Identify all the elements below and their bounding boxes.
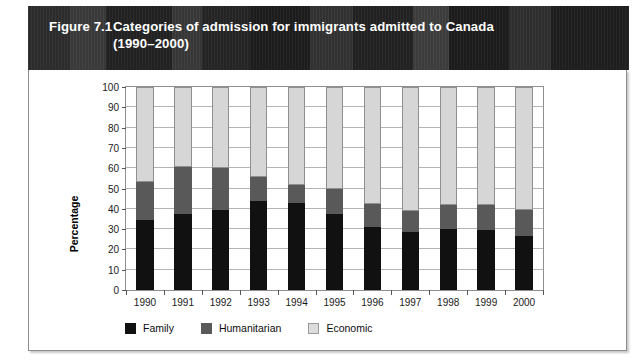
x-axis-tick-mark xyxy=(505,290,506,295)
y-axis-tick-label: 90 xyxy=(108,102,119,113)
x-axis-tick-mark xyxy=(467,290,468,295)
y-axis-tick-mark xyxy=(122,148,126,149)
x-axis-tick-mark xyxy=(164,290,165,295)
x-axis-tick-mark xyxy=(543,290,544,295)
bar-segment-humanitarian xyxy=(364,204,381,227)
x-axis-tick-label: 1992 xyxy=(210,297,232,308)
bar-column xyxy=(326,87,343,290)
bar-segment-economic xyxy=(212,87,229,168)
legend-swatch-family xyxy=(125,323,136,334)
bar-column xyxy=(136,87,153,290)
figure-container: Figure 7.1Categories of admission for im… xyxy=(0,0,641,361)
bar-segment-economic xyxy=(288,87,305,185)
x-axis-tick-mark xyxy=(391,290,392,295)
x-axis-tick-mark xyxy=(126,290,127,295)
legend-item[interactable]: Economic xyxy=(308,322,372,334)
x-axis-tick-label: 1990 xyxy=(134,297,156,308)
bar-segment-family xyxy=(515,236,532,290)
bar-segment-family xyxy=(402,232,419,290)
y-axis-tick-mark xyxy=(122,229,126,230)
x-axis-tick-mark xyxy=(202,290,203,295)
bar-segment-economic xyxy=(326,87,343,189)
chart-plot-wrapper: 0102030405060708090100 19901991199219931… xyxy=(125,86,544,291)
y-axis-tick-mark xyxy=(122,270,126,271)
figure-title-block: Figure 7.1Categories of admission for im… xyxy=(49,18,619,52)
legend-label: Family xyxy=(143,322,174,334)
bar-segment-economic xyxy=(515,87,532,210)
y-axis-tick-label: 20 xyxy=(108,244,119,255)
chart-plot-area: 0102030405060708090100 19901991199219931… xyxy=(125,86,544,291)
bar-segment-humanitarian xyxy=(477,205,494,230)
legend-label: Economic xyxy=(326,322,372,334)
bar-segment-economic xyxy=(174,87,191,167)
legend-label: Humanitarian xyxy=(219,322,281,334)
y-axis-tick-label: 50 xyxy=(108,183,119,194)
y-axis-tick-label: 10 xyxy=(108,264,119,275)
y-axis-tick-label: 60 xyxy=(108,163,119,174)
bar-segment-humanitarian xyxy=(288,185,305,202)
bar-segment-humanitarian xyxy=(515,210,532,236)
x-axis-tick-label: 1997 xyxy=(399,297,421,308)
bar-column xyxy=(477,87,494,290)
x-axis-tick-label: 1998 xyxy=(437,297,459,308)
x-axis-tick-mark xyxy=(429,290,430,295)
y-axis-tick-mark xyxy=(122,128,126,129)
y-axis-tick-mark xyxy=(122,107,126,108)
bar-segment-humanitarian xyxy=(250,177,267,200)
legend-item[interactable]: Family xyxy=(125,322,174,334)
x-axis-tick-label: 1994 xyxy=(285,297,307,308)
y-axis-tick-mark xyxy=(122,168,126,169)
bar-segment-humanitarian xyxy=(440,205,457,229)
bar-segment-humanitarian xyxy=(136,182,153,220)
bar-column xyxy=(174,87,191,290)
bar-segment-family xyxy=(326,214,343,290)
bar-segment-economic xyxy=(136,87,153,182)
figure-title-subtitle: (1990–2000) xyxy=(49,35,619,52)
legend-swatch-economic xyxy=(308,323,319,334)
x-axis-tick-label: 2000 xyxy=(513,297,535,308)
x-axis-tick-mark xyxy=(353,290,354,295)
bar-column xyxy=(250,87,267,290)
y-axis-title: Percentage xyxy=(68,169,80,279)
bar-column xyxy=(440,87,457,290)
bar-segment-family xyxy=(212,210,229,290)
bar-segment-family xyxy=(288,203,305,290)
bar-segment-humanitarian xyxy=(174,167,191,214)
y-axis-tick-label: 70 xyxy=(108,142,119,153)
figure-body: Percentage 0102030405060708090100 199019… xyxy=(28,70,627,351)
y-axis-tick-label: 40 xyxy=(108,203,119,214)
figure-title-text: Categories of admission for immigrants a… xyxy=(113,19,494,34)
bar-segment-family xyxy=(440,229,457,290)
y-axis-tick-label: 0 xyxy=(113,285,119,296)
bar-segment-economic xyxy=(364,87,381,204)
figure-title-line-1: Figure 7.1Categories of admission for im… xyxy=(49,18,619,35)
x-axis-tick-label: 1999 xyxy=(475,297,497,308)
chart-legend: FamilyHumanitarianEconomic xyxy=(125,322,372,334)
y-axis-tick-mark xyxy=(122,249,126,250)
bar-column xyxy=(515,87,532,290)
x-axis-tick-label: 1995 xyxy=(323,297,345,308)
bar-segment-humanitarian xyxy=(326,189,343,214)
x-axis-tick-label: 1996 xyxy=(361,297,383,308)
x-axis-tick-mark xyxy=(316,290,317,295)
y-axis-tick-mark xyxy=(122,189,126,190)
legend-item[interactable]: Humanitarian xyxy=(201,322,281,334)
bar-segment-economic xyxy=(250,87,267,177)
bar-segment-economic xyxy=(477,87,494,205)
bar-column xyxy=(402,87,419,290)
bar-segment-family xyxy=(136,220,153,290)
bar-segment-economic xyxy=(440,87,457,205)
bar-column xyxy=(288,87,305,290)
x-axis-tick-mark xyxy=(240,290,241,295)
y-axis-tick-label: 30 xyxy=(108,224,119,235)
bar-column xyxy=(212,87,229,290)
bar-segment-family xyxy=(250,201,267,290)
bar-segment-family xyxy=(364,227,381,290)
x-axis-tick-mark xyxy=(278,290,279,295)
legend-swatch-humanitarian xyxy=(201,323,212,334)
bar-segment-family xyxy=(477,230,494,290)
bar-segment-family xyxy=(174,214,191,290)
y-axis-tick-label: 80 xyxy=(108,122,119,133)
y-axis-tick-mark xyxy=(122,209,126,210)
figure-number: Figure 7.1 xyxy=(49,18,113,35)
